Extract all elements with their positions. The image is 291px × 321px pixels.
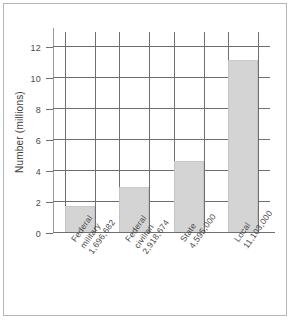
y-tick-label: 10 bbox=[30, 74, 41, 84]
x-gridline bbox=[149, 32, 150, 232]
x-gridline bbox=[65, 32, 66, 232]
y-axis-tick: 2 bbox=[46, 202, 53, 203]
y-axis-tick: 8 bbox=[46, 109, 53, 110]
y-tick-label: 6 bbox=[36, 136, 41, 146]
y-tick-label: 12 bbox=[30, 43, 41, 53]
y-axis-tick: 6 bbox=[46, 140, 53, 141]
y-axis-tick: 10 bbox=[46, 78, 53, 79]
x-gridline bbox=[95, 32, 96, 232]
bar-chart-figure: Number (millions) 024681012Federalmilita… bbox=[0, 0, 291, 321]
y-tick-label: 0 bbox=[36, 229, 41, 239]
y-axis-tick: 0 bbox=[46, 233, 53, 234]
y-tick-label: 8 bbox=[36, 105, 41, 115]
y-axis-tick: 12 bbox=[46, 47, 53, 48]
y-axis-title: Number (millions) bbox=[14, 91, 25, 173]
y-axis-tick: 4 bbox=[46, 171, 53, 172]
x-gridline bbox=[204, 32, 205, 232]
y-gridline: 12 bbox=[53, 46, 270, 47]
y-tick-label: 2 bbox=[36, 198, 41, 208]
y-tick-label: 4 bbox=[36, 167, 41, 177]
plot-area: Number (millions) 024681012Federalmilita… bbox=[53, 32, 270, 232]
